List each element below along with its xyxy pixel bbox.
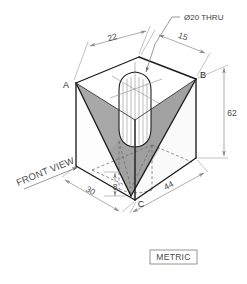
vertex-label-a: A [63,80,69,90]
vertex-label-b: B [200,70,206,80]
units-badge-group: METRIC [150,250,197,264]
dim-line-22 [90,31,146,46]
solid-body-group [76,57,196,200]
dimension-value-22: 22 [106,31,118,43]
dimension-value-8: 8 [113,182,118,192]
hole-note-group: Ø20 THRU [146,13,224,72]
ext-line-44-a [130,202,136,213]
metric-label: METRIC [156,252,190,262]
dimension-value-15: 15 [177,30,190,43]
hole-note-text: Ø20 THRU [184,13,224,22]
ext-line-22-b [139,26,150,54]
vertex-label-c: C [138,199,145,209]
dimension-value-62: 62 [227,108,237,118]
ext-line-22-a [74,42,88,80]
ext-line-30-b [122,202,134,212]
ext-line-44-b [197,160,208,172]
technical-drawing-sheet: 22 15 62 30 44 [0,0,247,284]
dimension-value-30: 30 [84,184,97,198]
isometric-drawing-canvas: 22 15 62 30 44 [0,0,247,284]
front-view-label: FRONT VIEW [15,155,76,188]
